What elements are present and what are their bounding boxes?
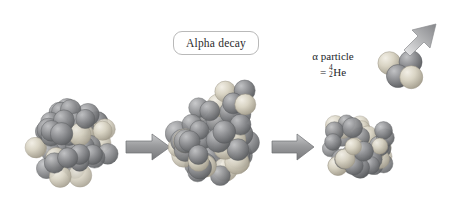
equals-sign: =	[320, 66, 326, 78]
arrow-stage2-to-stage3	[272, 134, 314, 160]
alpha-decay-label-text: Alpha decay	[186, 37, 246, 49]
alpha-particle-label-line2: = 4 2 He	[296, 64, 370, 79]
parent-nucleus	[25, 98, 118, 187]
element-symbol: He	[333, 66, 346, 78]
arrow-stage1-to-stage2	[126, 134, 170, 160]
nucleus-with-emerging-alpha	[165, 80, 259, 186]
alpha-particle-label-line1: α particle	[312, 50, 354, 62]
daughter-nucleus	[322, 115, 394, 178]
emission-arrow	[404, 24, 436, 56]
alpha-particle-label: α particle = 4 2 He	[296, 50, 370, 79]
alpha-particle-cluster	[378, 51, 423, 89]
alpha-decay-label: Alpha decay	[173, 31, 259, 55]
